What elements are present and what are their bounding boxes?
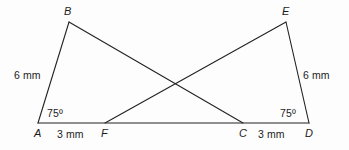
vertex-label-e: E: [282, 6, 290, 17]
vertex-label-d: D: [305, 128, 313, 139]
vertex-label-c: C: [239, 128, 247, 139]
vertex-label-b: B: [64, 6, 72, 17]
angle-label-a: 75º: [47, 108, 63, 119]
segment-length-af: 3 mm: [57, 129, 84, 140]
segment-FE: [105, 22, 286, 123]
vertex-label-a: A: [34, 128, 42, 139]
side-length-ed: 6 mm: [303, 70, 330, 81]
segment-length-cd: 3 mm: [258, 129, 285, 140]
geometry-canvas: [0, 0, 349, 150]
vertex-label-f: F: [101, 128, 108, 139]
geometry-figure: B E A F C D 6 mm 6 mm 3 mm 3 mm 75º 75º: [0, 0, 349, 150]
side-length-ab: 6 mm: [14, 70, 41, 81]
segment-BC: [69, 22, 243, 123]
angle-label-d: 75º: [280, 108, 296, 119]
